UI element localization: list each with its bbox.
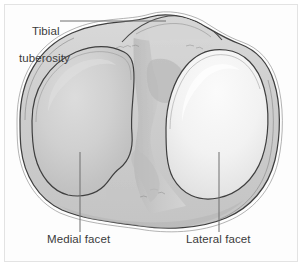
label-lateral-facet: Lateral facet — [186, 233, 251, 247]
label-tibial-tuberosity: Tibial tuberosity — [19, 11, 70, 92]
label-tibial-tuberosity-line2: tuberosity — [19, 52, 70, 66]
label-medial-facet: Medial facet — [47, 233, 110, 247]
label-tibial-tuberosity-line1: Tibial — [32, 25, 60, 37]
figure-panel: Tibial tuberosity Medial facet Lateral f… — [0, 0, 306, 272]
